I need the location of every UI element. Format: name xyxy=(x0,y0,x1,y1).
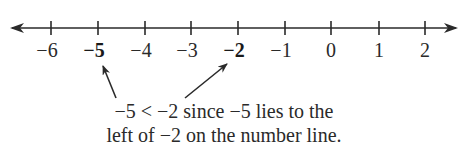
tick-label: −4 xyxy=(130,39,151,61)
tick-label: 2 xyxy=(420,39,430,61)
annotation-line-1: −5 < −2 since −5 lies to the xyxy=(0,99,458,123)
annotation-line-2: left of −2 on the number line. xyxy=(0,123,458,147)
tick-label: −6 xyxy=(36,39,57,61)
tick-label: −3 xyxy=(176,39,197,61)
pointer-arrow-to-minus-5 xyxy=(103,66,116,98)
tick-label: −2 xyxy=(223,39,244,61)
tick-label: 0 xyxy=(326,39,336,61)
tick-label: −1 xyxy=(270,39,291,61)
pointer-arrow-to-minus-2 xyxy=(185,64,227,98)
tick-label: −5 xyxy=(83,39,104,61)
tick-labels: −6−5−4−3−2−1012 xyxy=(36,39,430,61)
tick-label: 1 xyxy=(374,39,384,61)
